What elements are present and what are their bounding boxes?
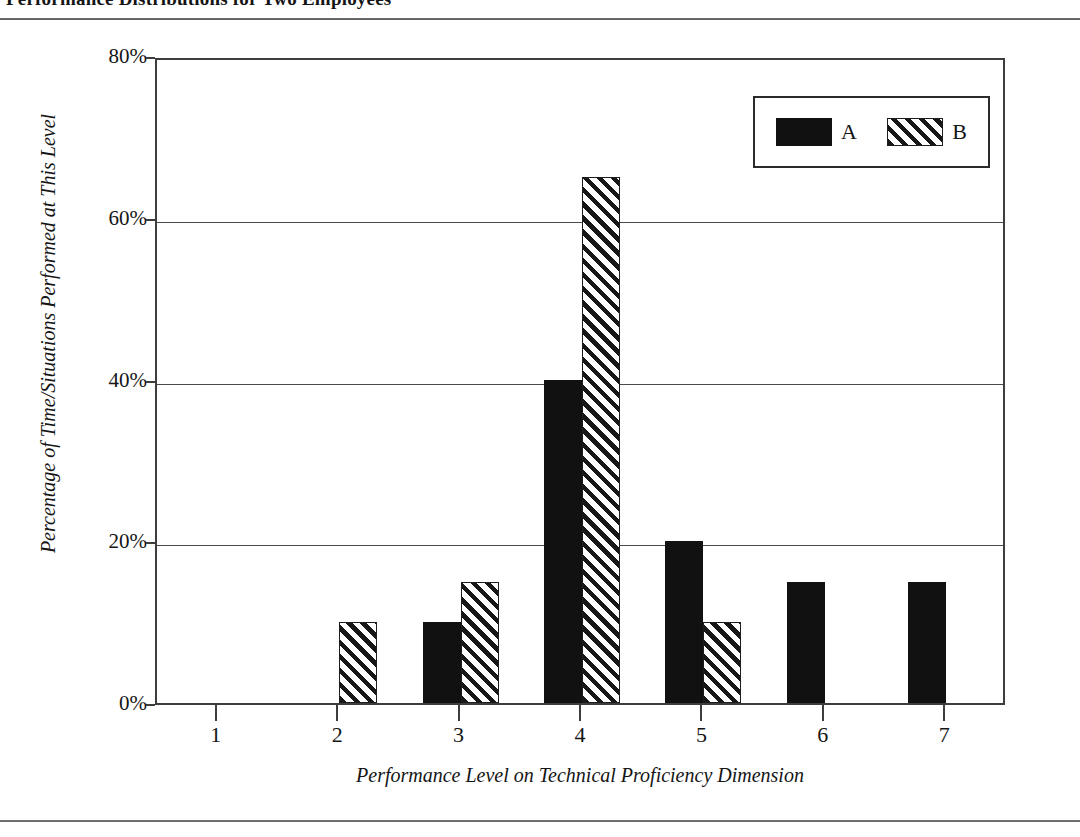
bar-a-level-5	[665, 541, 703, 703]
x-tick-mark-7	[943, 705, 945, 721]
x-tick-mark-4	[579, 705, 581, 721]
bar-a-level-6	[787, 582, 825, 703]
bar-b-level-2	[339, 622, 377, 703]
x-tick-label-1: 1	[186, 722, 246, 748]
bar-a-level-7	[908, 582, 946, 703]
y-tick-label-40: 40%	[109, 368, 148, 393]
x-tick-mark-3	[458, 705, 460, 721]
chart-legend: A B	[753, 96, 990, 168]
x-tick-mark-2	[336, 705, 338, 721]
bar-a-level-3	[423, 622, 461, 703]
bar-chart: Percentage of Time/Situations Performed …	[0, 22, 1080, 817]
x-tick-label-4: 4	[550, 722, 610, 748]
x-tick-mark-5	[700, 705, 702, 721]
y-axis-tick-labels: 0%20%40%60%80%	[52, 58, 147, 705]
bar-b-level-3	[461, 582, 499, 703]
x-axis-tick-marks	[155, 705, 1005, 721]
figure-title: Performance Distributions for Two Employ…	[0, 0, 1080, 14]
y-tick-mark-0	[146, 704, 155, 706]
footer-rule	[0, 820, 1080, 822]
x-tick-label-6: 6	[793, 722, 853, 748]
y-tick-label-60: 60%	[109, 206, 148, 231]
x-axis-label: Performance Level on Technical Proficien…	[155, 764, 1005, 787]
x-tick-mark-1	[215, 705, 217, 721]
legend-entry-a: A	[776, 118, 857, 146]
x-tick-mark-6	[822, 705, 824, 721]
x-tick-label-2: 2	[307, 722, 367, 748]
x-tick-label-3: 3	[429, 722, 489, 748]
x-tick-label-7: 7	[914, 722, 974, 748]
bar-b-level-4	[582, 177, 620, 703]
x-tick-label-5: 5	[671, 722, 731, 748]
legend-label-a: A	[841, 119, 857, 145]
y-tick-label-20: 20%	[109, 529, 148, 554]
legend-entry-b: B	[887, 118, 967, 146]
legend-swatch-b	[887, 118, 943, 146]
header-rule	[0, 18, 1080, 20]
legend-swatch-a	[776, 118, 832, 146]
y-tick-mark-20	[146, 542, 155, 544]
y-tick-mark-60	[146, 219, 155, 221]
x-axis-tick-labels: 1234567	[155, 722, 1005, 756]
legend-label-b: B	[952, 119, 967, 145]
y-tick-mark-40	[146, 381, 155, 383]
y-tick-label-80: 80%	[109, 44, 148, 69]
bar-b-level-5	[703, 622, 741, 703]
bar-a-level-4	[544, 380, 582, 704]
y-tick-mark-80	[146, 57, 155, 59]
y-tick-label-0: 0%	[119, 691, 147, 716]
